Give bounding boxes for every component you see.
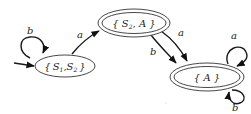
transition-label-a: a (77, 29, 83, 40)
transition-s1s2-to-s2a-a: a (72, 29, 99, 54)
start-arrow (14, 63, 34, 66)
speck (165, 102, 166, 103)
state-label: { S2, A } (112, 18, 155, 30)
state-s1s2: {S1,S2} (35, 55, 95, 77)
transition-label-b: b (232, 102, 238, 113)
transition-label-a: a (231, 30, 237, 41)
transition-label-b: b (27, 25, 33, 36)
transition-a-self-b: b (229, 90, 244, 113)
transition-label-b: b (150, 46, 156, 57)
transition-a-self-a: a (227, 30, 247, 66)
state-s2a: { S2, A } (98, 9, 170, 37)
state-a: { A } (170, 63, 244, 91)
transition-s2a-to-a-b: b (150, 35, 176, 63)
state-label: {S1,S2} (44, 61, 85, 73)
automaton-diagram: b a a b a b {S1,S2} { S2, A } (0, 0, 251, 114)
transition-s2a-to-a-a: a (161, 27, 187, 61)
transition-label-a: a (178, 27, 184, 38)
transition-s1s2-self-b: b (21, 25, 44, 58)
state-label: { A } (194, 72, 220, 83)
